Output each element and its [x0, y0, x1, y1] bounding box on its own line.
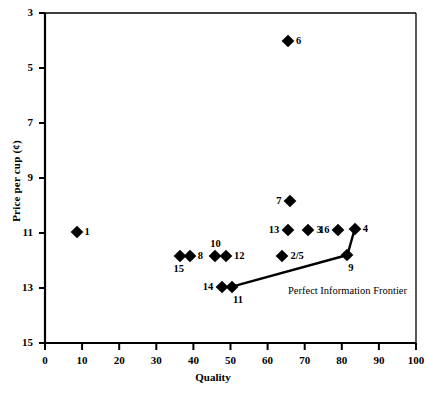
data-point-label: 9 [348, 263, 353, 274]
data-point-label: 13 [269, 225, 280, 236]
x-tick-label: 40 [173, 355, 213, 366]
data-point-label: 16 [319, 225, 330, 236]
plot-axes-and-frontier [0, 0, 426, 393]
y-axis-title: Price per cup (¢) [10, 121, 22, 241]
x-tick-label: 10 [62, 355, 102, 366]
data-point-label: 2/5 [290, 251, 303, 262]
x-tick-label: 50 [211, 355, 251, 366]
data-point-label: 8 [198, 251, 203, 262]
x-tick-label: 0 [25, 355, 65, 366]
data-point-label: 4 [363, 224, 368, 235]
data-point-label: 10 [210, 239, 221, 250]
x-tick-label: 100 [396, 355, 426, 366]
data-point-label: 11 [233, 295, 243, 306]
y-tick-label: 15 [3, 337, 33, 348]
data-point-label: 7 [276, 196, 281, 207]
y-tick-label: 5 [3, 62, 33, 73]
data-point-label: 1 [85, 227, 90, 238]
x-axis-title: Quality [0, 371, 426, 383]
data-point-label: 12 [234, 251, 245, 262]
x-tick-label: 20 [99, 355, 139, 366]
y-tick-label: 3 [3, 7, 33, 18]
scatter-plot: 1513119753 0102030405060708090100 Price … [0, 0, 426, 393]
data-point-label: 15 [173, 264, 184, 275]
x-tick-label: 80 [322, 355, 362, 366]
frontier-annotation: Perfect Information Frontier [288, 286, 407, 297]
data-point-label: 14 [203, 282, 214, 293]
x-tick-label: 70 [285, 355, 325, 366]
x-tick-label: 60 [248, 355, 288, 366]
data-point-label: 6 [296, 36, 301, 47]
chart-container: 1513119753 0102030405060708090100 Price … [0, 0, 426, 393]
y-tick-label: 13 [3, 282, 33, 293]
x-tick-label: 90 [359, 355, 399, 366]
x-tick-label: 30 [136, 355, 176, 366]
